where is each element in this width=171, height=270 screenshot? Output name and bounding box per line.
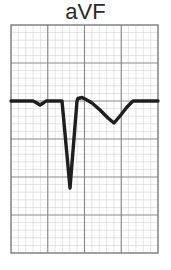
ecg-strip: [0, 0, 171, 270]
